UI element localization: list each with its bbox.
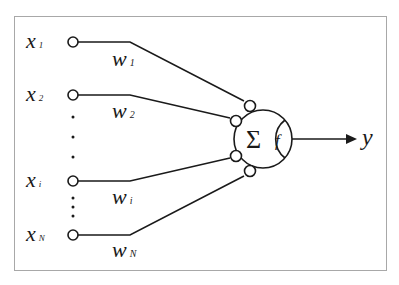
- weight-label-i: wi: [112, 184, 133, 209]
- input-node-n: [68, 230, 78, 240]
- synapse-node-1: [245, 101, 256, 112]
- input-label-n: xN: [25, 221, 46, 246]
- arrow-head-icon: [346, 134, 357, 144]
- input-label-i: xi: [25, 167, 42, 192]
- synapse-node-i: [231, 151, 242, 162]
- perceptron-diagram: x1 x2 xi xN w1 w2 wi wN Σ f y: [0, 0, 399, 285]
- input-label-2: x2: [25, 81, 44, 106]
- input-node-1: [68, 37, 78, 47]
- output-label: y: [360, 124, 373, 150]
- input-label-1: x1: [25, 28, 43, 53]
- synapse-node-2: [231, 116, 242, 127]
- input-node-i: [68, 176, 78, 186]
- weight-label-1: w1: [112, 46, 135, 71]
- weight-label-2: w2: [112, 98, 135, 123]
- weight-label-n: wN: [112, 237, 138, 262]
- input-connection-2: [68, 90, 230, 118]
- input-connection-i: [68, 158, 230, 186]
- sum-symbol: Σ: [246, 125, 261, 154]
- input-connection-1: [68, 37, 244, 101]
- neuron-body: [234, 110, 292, 168]
- input-node-2: [68, 90, 78, 100]
- synapse-node-n: [245, 166, 256, 177]
- input-connection-n: [68, 176, 244, 240]
- ellipsis-dots: [72, 116, 75, 218]
